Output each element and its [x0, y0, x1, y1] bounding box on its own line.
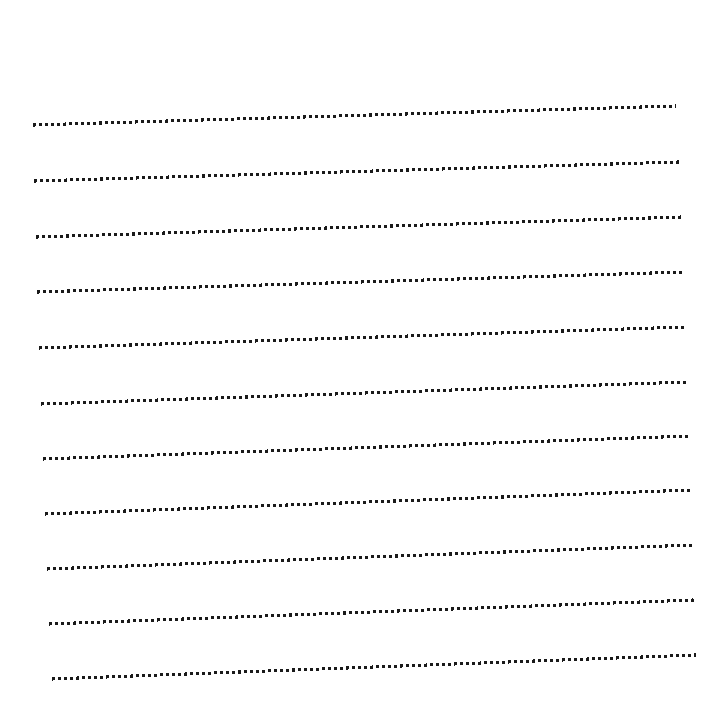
ruled-lines-canvas: [0, 0, 723, 725]
page-background: [0, 0, 723, 725]
scanned-page: Dotted Ruled Lines Sheet: [0, 0, 723, 725]
